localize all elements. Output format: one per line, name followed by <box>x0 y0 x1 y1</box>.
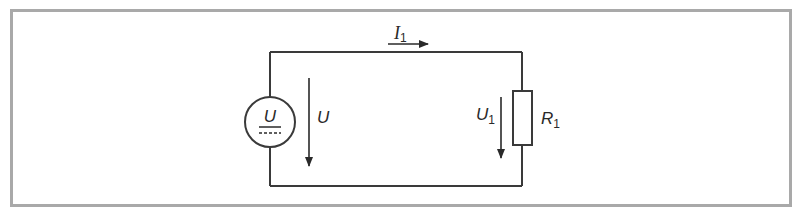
source-voltage-label: U <box>317 108 330 127</box>
resistor-label: R1 <box>541 109 560 131</box>
voltage-source-symbol: U <box>245 97 295 147</box>
resistor-subscript: 1 <box>553 117 560 131</box>
resistor-symbol <box>513 91 532 145</box>
circuit-diagram: U R1 I1 U U1 <box>0 0 806 220</box>
current-subscript: 1 <box>400 31 407 45</box>
current-label: I1 <box>393 23 407 45</box>
resistor-voltage-subscript: 1 <box>488 113 495 127</box>
source-symbol-label: U <box>264 107 277 126</box>
resistor-voltage-label: U1 <box>476 105 495 127</box>
